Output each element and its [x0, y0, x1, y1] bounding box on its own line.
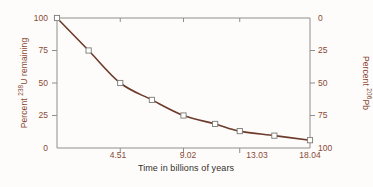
u238-decay-line — [57, 18, 310, 140]
data-point-7 — [272, 133, 277, 138]
data-point-6 — [237, 129, 242, 134]
data-point-3 — [149, 97, 154, 102]
y-right-superscript: 206 — [366, 88, 373, 99]
data-point-0 — [54, 15, 59, 20]
y-right-tick-75: 75 — [318, 110, 344, 120]
y-right-prefix: Percent — [361, 56, 371, 88]
x-axis-title: Time in billions of years — [0, 163, 372, 173]
x-tick-4-51: 4.51 — [96, 150, 140, 160]
y-left-tick-50: 50 — [22, 78, 48, 88]
y-right-suffix: Pb — [361, 100, 371, 111]
data-point-1 — [86, 48, 91, 53]
x-tick-18-04: 18.04 — [288, 150, 332, 160]
y-left-tick-75: 75 — [22, 45, 48, 55]
data-point-4 — [181, 113, 186, 118]
y-right-tick-0: 0 — [318, 13, 344, 23]
y-right-tick-25: 25 — [318, 45, 344, 55]
data-point-5 — [213, 121, 218, 126]
data-point-2 — [118, 80, 123, 85]
y-right-tick-50: 50 — [318, 78, 344, 88]
y-left-tick-100: 100 — [22, 13, 48, 23]
data-point-8 — [307, 138, 312, 143]
x-tick-9-02: 9.02 — [166, 150, 210, 160]
x-tick-13-03: 13.03 — [235, 150, 279, 160]
y-left-tick-0: 0 — [22, 143, 48, 153]
axes — [57, 18, 310, 148]
y-left-tick-25: 25 — [22, 110, 48, 120]
y-axis-right-title: Percent 206Pb — [361, 23, 371, 143]
data-point-markers — [54, 15, 312, 142]
